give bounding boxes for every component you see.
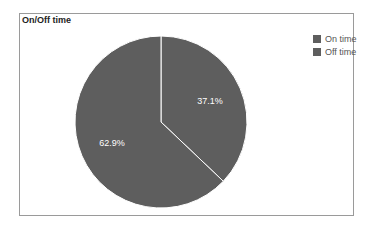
legend: On time Off time bbox=[313, 33, 357, 59]
slice-label-off-time: 62.9% bbox=[99, 138, 125, 148]
legend-swatch bbox=[313, 35, 321, 43]
legend-swatch bbox=[313, 48, 321, 56]
legend-item-off-time[interactable]: Off time bbox=[313, 46, 357, 58]
slice-label-on-time: 37.1% bbox=[197, 96, 223, 106]
legend-item-on-time[interactable]: On time bbox=[313, 33, 357, 45]
legend-label: On time bbox=[325, 34, 357, 44]
legend-label: Off time bbox=[325, 47, 356, 57]
